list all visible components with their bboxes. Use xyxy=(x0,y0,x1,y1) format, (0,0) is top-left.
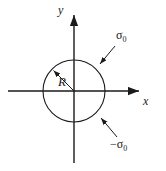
outer-stress-arrow xyxy=(100,46,115,64)
diagram-canvas xyxy=(0,0,166,171)
y-axis-label: y xyxy=(58,4,63,16)
figure-container: y x R σ0 −σ0 xyxy=(0,0,166,171)
outer-stress-label: σ0 xyxy=(116,29,126,44)
radius-label: R xyxy=(58,75,66,88)
inner-stress-arrow xyxy=(101,118,117,137)
inner-stress-subscript: 0 xyxy=(123,144,127,153)
x-axis-label: x xyxy=(143,95,148,107)
inner-stress-symbol: −σ xyxy=(110,137,123,151)
inner-stress-label: −σ0 xyxy=(110,138,127,153)
outer-stress-subscript: 0 xyxy=(122,35,126,44)
